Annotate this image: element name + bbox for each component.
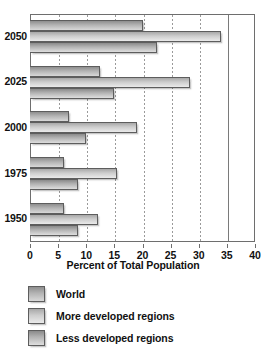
x-tick-mark [114,244,115,248]
bar [30,157,64,168]
bar [30,66,100,77]
y-axis-label-2050: 2050 [0,30,27,42]
bar-group [30,105,255,151]
bar [30,88,114,99]
bar [30,168,117,179]
bar [30,203,64,214]
bar [30,225,78,236]
bar [30,77,190,88]
bar [30,111,69,122]
legend-item: World [28,283,266,305]
x-tick-mark [255,244,256,248]
bar [30,133,86,144]
chart-legend: WorldMore developed regionsLess develope… [28,283,266,349]
legend-swatch-world [28,286,45,302]
bar-group [30,196,255,242]
x-tick-mark [58,244,59,248]
x-tick-mark [171,244,172,248]
bar [30,42,157,53]
x-tick-mark [86,244,87,248]
x-tick-mark [30,244,31,248]
legend-label: Less developed regions [56,332,173,344]
legend-swatch-less-developed [28,330,45,346]
bar [30,214,98,225]
bar [30,31,221,42]
x-axis-ticks: 0510152025303540 [0,244,266,258]
x-tick-mark [143,244,144,248]
y-axis-label-2000: 2000 [0,121,27,133]
bar-group [30,151,255,197]
y-axis-label-1975: 1975 [0,167,27,179]
x-tick-mark [199,244,200,248]
y-axis-label-1950: 1950 [0,212,27,224]
bar [30,20,143,31]
legend-item: Less developed regions [28,327,266,349]
legend-label: World [56,288,85,300]
x-axis-title: Percent of Total Population [0,259,266,271]
legend-label: More developed regions [56,310,175,322]
legend-item: More developed regions [28,305,266,327]
bar [30,122,137,133]
y-axis-label-2025: 2025 [0,75,27,87]
bar-group [30,14,255,60]
bar-groups [30,14,255,242]
bar-group [30,60,255,106]
legend-swatch-more-developed [28,308,45,324]
bar [30,179,78,190]
x-tick-mark [227,244,228,248]
chart-container: 20502025200019751950 0510152025303540 Pe… [0,0,266,351]
